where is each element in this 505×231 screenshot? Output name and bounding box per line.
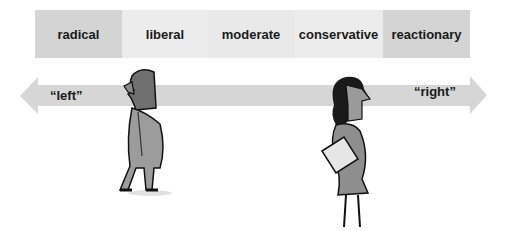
right-label: “right” [414,84,456,99]
man-figure-icon [110,68,190,198]
double-arrow-icon [0,0,505,231]
left-label: “left” [50,88,83,103]
woman-figure-icon [318,75,388,231]
